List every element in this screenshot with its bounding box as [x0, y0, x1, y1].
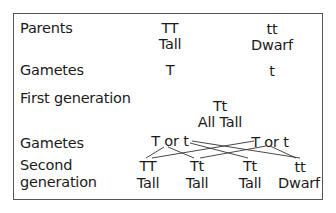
offspring-1-genotype: TT [139, 158, 156, 174]
offspring-1-phenotype: Tall [137, 175, 160, 191]
offspring-3-genotype: Tt [243, 158, 257, 174]
offspring-2-genotype: Tt [190, 158, 204, 174]
row-label-second-generation-2: generation [20, 174, 97, 190]
offspring-4-phenotype: Dwarf [278, 175, 320, 191]
offspring-2-phenotype: Tall [186, 175, 209, 191]
offspring-3-phenotype: Tall [239, 175, 262, 191]
row-label-second-generation-1: Second [20, 157, 72, 173]
offspring-4-genotype: tt [295, 159, 306, 175]
